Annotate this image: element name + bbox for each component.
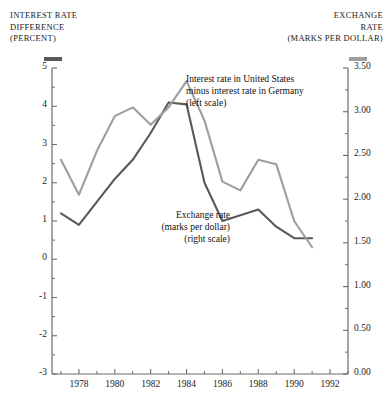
left-axis-tick-label: -3: [25, 367, 47, 377]
x-axis-tick-label: 1990: [274, 379, 314, 389]
right-axis-tick-label: 0.00: [354, 367, 388, 377]
left-axis-tick-label: 3: [25, 138, 47, 148]
right-axis-tick-label: 0.50: [354, 323, 388, 333]
x-axis-tick-label: 1986: [202, 379, 242, 389]
left-axis-tick-label: 5: [25, 61, 47, 71]
right-axis-tick-label: 3.00: [354, 105, 388, 115]
interest-annotation-line-1: Interest rate in United States: [186, 74, 304, 86]
right-axis-tick-label: 1.00: [354, 280, 388, 290]
left-axis-tick-label: -2: [25, 329, 47, 339]
left-axis-tick-label: 0: [25, 252, 47, 262]
right-axis-tick-label: 1.50: [354, 236, 388, 246]
left-axis-tick-label: 1: [25, 214, 47, 224]
x-axis-tick-label: 1992: [310, 379, 350, 389]
x-axis-tick-label: 1982: [131, 379, 171, 389]
left-axis-tick-label: 2: [25, 176, 47, 186]
exchange-annotation-line-3: (right scale): [112, 234, 230, 246]
x-axis-tick-label: 1988: [238, 379, 278, 389]
interest-annotation-line-2: minus interest rate in Germany: [186, 86, 304, 98]
right-axis-tick-label: 2.00: [354, 192, 388, 202]
exchange-annotation-line-2: (marks per dollar): [112, 222, 230, 234]
figure: INTEREST RATE DIFFERENCE (PERCENT) EXCHA…: [0, 0, 391, 405]
interest-rate-annotation: Interest rate in United States minus int…: [186, 74, 304, 109]
interest-annotation-line-3: (left scale): [186, 98, 304, 110]
exchange-rate-annotation: Exchange rate (marks per dollar) (right …: [112, 210, 230, 245]
exchange-annotation-line-1: Exchange rate: [112, 210, 230, 222]
x-axis-tick-label: 1978: [59, 379, 99, 389]
x-axis-tick-label: 1980: [95, 379, 135, 389]
left-axis-tick-label: -1: [25, 291, 47, 301]
right-axis-tick-label: 2.50: [354, 148, 388, 158]
chart-plot-area: [0, 0, 391, 405]
x-axis-tick-label: 1984: [167, 379, 207, 389]
left-axis-tick-label: 4: [25, 99, 47, 109]
right-axis-tick-label: 3.50: [354, 61, 388, 71]
